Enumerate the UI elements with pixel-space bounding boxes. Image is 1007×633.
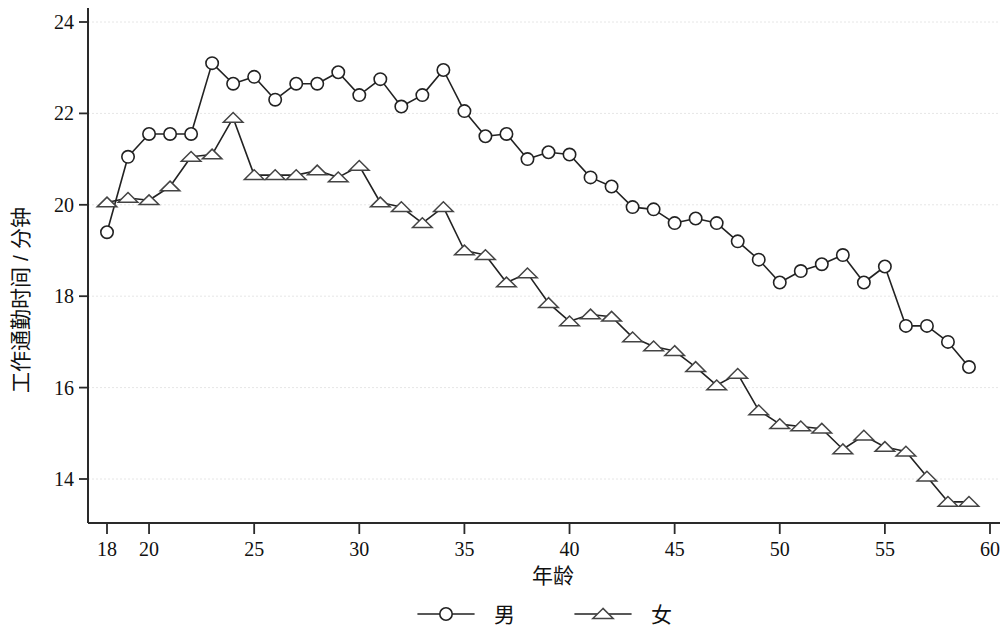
data-point-marker — [371, 197, 391, 207]
legend-group: 男女 — [418, 603, 672, 626]
data-point-marker — [227, 77, 239, 89]
data-point-marker — [374, 73, 386, 85]
data-point-marker — [518, 268, 538, 278]
data-point-marker — [437, 64, 449, 76]
data-point-marker — [97, 197, 117, 207]
data-point-marker — [686, 362, 706, 372]
data-point-marker — [584, 171, 596, 183]
data-point-marker — [879, 260, 891, 272]
data-point-marker — [185, 128, 197, 140]
data-point-marker — [434, 202, 454, 212]
data-point-marker — [858, 276, 870, 288]
x-tick-label: 30 — [349, 538, 369, 560]
data-point-marker — [269, 93, 281, 105]
commute-time-line-chart: 141618202224 18202530354045505560 男女 工作通… — [0, 0, 1007, 633]
x-tick-label: 60 — [980, 538, 1000, 560]
data-point-marker — [223, 113, 243, 123]
data-point-marker — [774, 276, 786, 288]
data-point-marker — [455, 245, 475, 255]
data-point-marker — [353, 89, 365, 101]
data-point-marker — [896, 446, 916, 456]
data-point-marker — [689, 212, 701, 224]
data-point-marker — [963, 361, 975, 373]
series-polyline — [107, 63, 969, 367]
data-point-marker — [497, 277, 517, 287]
data-point-marker — [206, 57, 218, 69]
legend-label: 女 — [651, 603, 672, 626]
data-point-marker — [395, 100, 407, 112]
data-point-marker — [560, 316, 580, 326]
data-point-marker — [539, 298, 559, 308]
data-point-marker — [143, 128, 155, 140]
data-point-marker — [332, 66, 344, 78]
data-point-marker — [164, 128, 176, 140]
y-tick-label: 18 — [54, 285, 74, 307]
data-point-marker — [458, 105, 470, 117]
data-point-marker — [837, 249, 849, 261]
legend-entry-female: 女 — [575, 603, 672, 626]
y-tick-group: 141618202224 — [54, 11, 88, 490]
data-point-marker — [623, 332, 643, 342]
data-point-marker — [665, 346, 685, 356]
data-point-marker — [542, 146, 554, 158]
y-tick-label: 20 — [54, 194, 74, 216]
data-point-marker — [122, 151, 134, 163]
data-point-marker — [710, 217, 722, 229]
data-point-marker — [626, 201, 638, 213]
x-axis-title: 年龄 — [532, 564, 574, 587]
data-point-marker — [290, 77, 302, 89]
x-tick-group: 18202530354045505560 — [97, 523, 1000, 560]
data-point-marker — [479, 130, 491, 142]
data-point-marker — [900, 320, 912, 332]
data-point-marker — [413, 218, 433, 228]
data-point-marker — [311, 77, 323, 89]
data-point-marker — [668, 217, 680, 229]
data-point-marker — [307, 165, 327, 175]
data-point-marker — [581, 309, 601, 319]
data-point-marker — [749, 405, 769, 415]
data-point-marker — [732, 235, 744, 247]
data-point-marker — [476, 250, 496, 260]
data-point-marker — [416, 89, 428, 101]
data-point-marker — [816, 258, 828, 270]
x-tick-label: 55 — [875, 538, 895, 560]
y-tick-label: 24 — [54, 11, 74, 33]
legend-label: 男 — [494, 603, 515, 626]
x-tick-label: 20 — [139, 538, 159, 560]
y-tick-label: 16 — [54, 377, 74, 399]
data-point-marker — [605, 180, 617, 192]
series-polyline — [107, 118, 969, 502]
data-point-marker — [500, 128, 512, 140]
legend-entry-male: 男 — [418, 603, 515, 626]
data-point-marker — [854, 430, 874, 440]
data-point-marker — [942, 336, 954, 348]
data-point-marker — [101, 226, 113, 238]
data-point-marker — [563, 148, 575, 160]
data-point-marker — [795, 265, 807, 277]
y-axis-title: 工作通勤时间 / 分钟 — [9, 207, 32, 393]
x-tick-label: 40 — [560, 538, 580, 560]
y-tick-label: 14 — [54, 468, 74, 490]
x-tick-label: 35 — [454, 538, 474, 560]
data-point-marker — [644, 341, 664, 351]
data-point-marker — [647, 203, 659, 215]
data-point-marker — [392, 202, 412, 212]
x-tick-label: 25 — [244, 538, 264, 560]
data-point-marker — [248, 71, 260, 83]
series-male — [101, 57, 975, 373]
data-point-marker — [921, 320, 933, 332]
x-tick-label: 18 — [97, 538, 117, 560]
data-point-marker — [202, 149, 222, 159]
x-tick-label: 45 — [665, 538, 685, 560]
x-tick-label: 50 — [770, 538, 790, 560]
data-point-marker — [728, 369, 748, 379]
data-point-marker — [349, 161, 369, 171]
data-point-marker — [440, 608, 452, 620]
data-point-marker — [521, 153, 533, 165]
series-group — [97, 57, 979, 506]
data-point-marker — [118, 193, 138, 203]
data-point-marker — [917, 471, 937, 481]
y-tick-label: 22 — [54, 102, 74, 124]
data-point-marker — [160, 181, 180, 191]
axes-group — [88, 8, 1000, 523]
